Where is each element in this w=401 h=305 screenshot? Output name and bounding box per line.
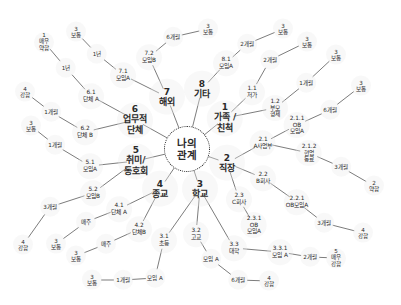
detail-node-n4_2_t: 매주 [101,241,111,247]
node-label-line: A사업부 [254,143,273,150]
category-node-n7: 7해외 [159,87,175,108]
edge-n1_2_t-n1_2_s [313,61,330,77]
node-label-line: 모임 A [203,256,219,262]
edge-n3_2_g-n3_2_t [218,265,231,275]
group-node-n2_3: 2.3C회사 [232,192,246,205]
node-label-line: 직장 [219,163,235,173]
node-label-line: 강함 [331,261,341,267]
edge-n3_1_g-n3_1_t [132,279,146,280]
detail-node-n6_1_s: 1매우약함 [39,32,49,51]
node-label-line: 모임A [83,166,97,173]
node-label-line: 매주 [101,241,111,247]
node-label-line: C회사 [232,199,246,206]
node-label-line: 7.2 [142,50,156,57]
detail-node-n6_1_t: 1년 [62,65,71,71]
detail-node-n8_1_s: 3보통 [278,23,288,36]
node-label-line: 2.1.2 [302,143,317,150]
node-label-line: 보통 [278,29,288,35]
node-label-line: 강함 [18,245,28,251]
node-label-line: 6 [123,104,147,114]
detail-node-n2_2_1_s: 4강함 [358,227,368,240]
node-label-line: 매우 [39,39,49,45]
node-label-line: 6개월 [323,107,337,113]
node-label-line: 1년 [93,51,102,57]
node-label-line: 3개월 [334,164,348,170]
edge-n1_1_t-n1_1_s [278,46,299,56]
node-label-line: 6.2 [77,125,93,132]
group-node-n5_1: 5.1모임A [83,159,97,172]
detail-node-n3_2_t: 6개월 [231,277,245,283]
detail-node-n5_1_t: 1개월 [48,142,62,148]
category-node-n3: 3학교 [192,179,208,200]
node-label-line: 친척 [214,123,236,133]
edge-n8_1_t-n8_1_s [255,32,274,40]
node-label-line: 고교 [191,234,201,241]
detail-node-n5_1_s: 3보통 [26,120,36,133]
node-label-line: 대학 [229,248,239,255]
node-label-line: OB모임A [286,202,309,209]
node-label-line: 1개월 [44,109,58,115]
node-label-line: 3.3.1 [272,245,288,252]
detail-node-n3_2_g: 모임 A [203,256,219,262]
detail-node-n1_1_s: 3보통 [302,36,312,49]
edge-n4_1_t-n4_1_s [63,227,78,238]
node-label-line: 3.3 [229,241,239,248]
center-node: 나의 관계 [177,137,197,161]
detail-node-n8_1_t: 2개월 [240,41,254,47]
group-node-n7_1: 7.1모임A [116,68,130,81]
detail-node-n3_1_s: 3보통 [87,274,97,287]
detail-node-n3_1_g: 모임 A [147,275,163,281]
node-label-line: 2.3 [232,192,246,199]
node-label-line: 저가 [247,92,257,99]
node-label-line: 약함 [369,186,379,192]
node-label-line: 해외 [159,97,175,107]
detail-node-n5_2_s: 4강함 [18,239,28,252]
node-label-line: 동호회 [124,166,148,176]
node-label-line: 모임 A [272,252,288,259]
node-label-line: 7.1 [116,68,130,75]
detail-node-n1_2_s: 3보통 [331,49,341,62]
detail-node-n7_1_t: 1년 [93,51,102,57]
group-node-n2_1: 2.1A사업부 [254,136,273,149]
node-label-line: 강함 [358,233,368,239]
node-label-line: 강함 [20,92,30,98]
center-label-line-1: 나의 [177,137,197,149]
group-node-n3_1: 3.1초등 [159,233,169,246]
edge-n2_1_1_t-n2_1_1_s [337,92,354,105]
detail-node-n1_2_t: 1개월 [299,80,313,86]
node-label-line: 보통 [331,55,341,61]
node-label-line: 5 [124,145,148,155]
group-node-n2_1_1: 2.1.1OB모임A [290,115,305,135]
detail-node-n3_3_1_t: 2개월 [303,254,317,260]
node-label-line: 매우 [331,255,341,261]
node-label-line: 2.2.1 [286,195,309,202]
node-label-line: 8 [194,79,210,89]
detail-node-n7_1_s: 3보통 [71,26,81,39]
node-label-line: 4 [152,179,168,189]
node-label-line: 6.1 [83,89,99,96]
node-label-line: 3 [192,179,208,189]
group-node-n1_2: 1.2부모형제 [270,98,280,118]
detail-node-n1_1_t: 2개월 [263,57,277,63]
group-node-n4_2: 4.2단체B [132,222,146,235]
group-node-n2_2: 2.2B회사 [256,171,270,184]
node-label-line: 1개월 [48,142,62,148]
detail-node-n2_1_2_t: 3개월 [334,164,348,170]
group-node-n3_3: 3.3대학 [229,241,239,254]
category-node-n1: 1가족 /친척 [214,102,236,133]
node-label-line: 6개월 [166,34,180,40]
node-label-line: 단체 A [111,209,127,216]
node-label-line: 4.2 [132,222,146,229]
node-label-line: 3개월 [317,220,331,226]
detail-node-n2_1_2_s: 2약함 [369,180,379,193]
node-label-line: 약함 [39,45,49,51]
node-label-line: 보통 [203,29,213,35]
node-label-line: 1 [214,102,236,112]
node-label-line: 3개월 [43,204,57,210]
node-label-line: 보통 [302,42,312,48]
detail-node-n4_1_t: 매주 [81,219,91,225]
detail-node-n7_2_s: 3보통 [203,23,213,36]
detail-node-n3_1_t: 1개월 [116,277,130,283]
node-label-line: 2.3.1 [247,215,262,222]
group-node-n4_1: 4.1단체 A [111,202,127,215]
